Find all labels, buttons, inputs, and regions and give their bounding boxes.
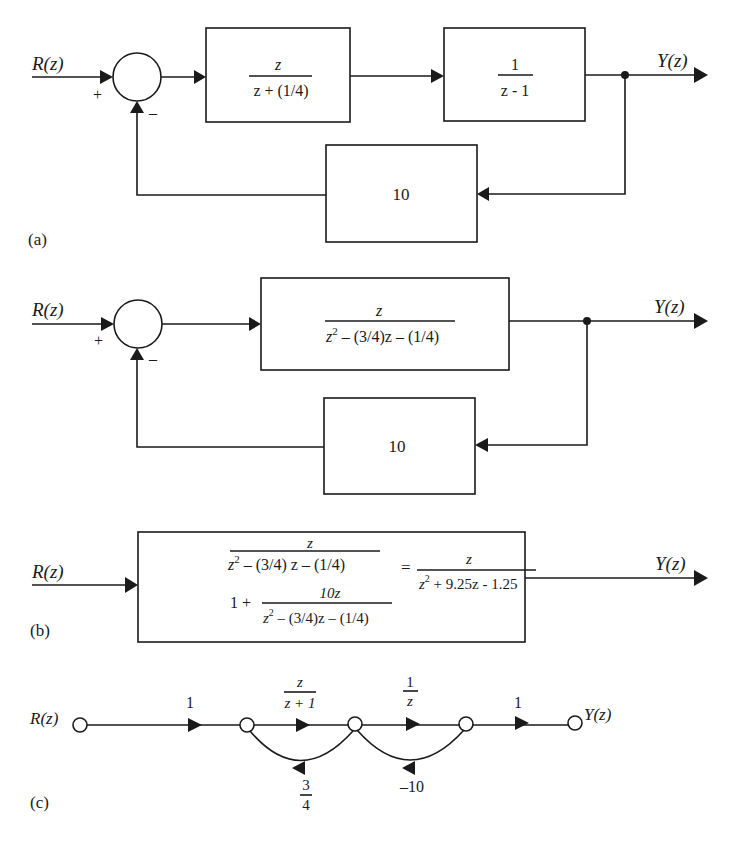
arrow-icon xyxy=(402,761,415,775)
input-label-c: R(z) xyxy=(29,709,59,728)
gain-z-over-z-plus-1-den: z + 1 xyxy=(284,695,316,711)
block-z-over-z-plus-quarter xyxy=(206,28,350,122)
lhs-inner-denominator: z2 – (3/4)z – (1/4) xyxy=(262,607,369,627)
arrow-icon xyxy=(406,717,420,731)
minus-sign: – xyxy=(148,350,158,367)
lhs-numerator: z xyxy=(306,535,313,551)
block2-denominator: z - 1 xyxy=(501,82,529,99)
arrow-icon xyxy=(515,716,529,730)
output-label-b1: Y(z) xyxy=(654,296,685,318)
feedback-minus-10: –10 xyxy=(399,778,424,795)
feedback-3-over-4-num: 3 xyxy=(302,777,310,793)
node-input xyxy=(73,718,87,732)
rhs-denominator: z2 + 9.25z - 1.25 xyxy=(418,573,517,592)
minus-sign: – xyxy=(148,104,158,121)
summing-junction-b xyxy=(114,300,162,348)
feedback-3-over-4-den: 4 xyxy=(302,797,310,813)
feedback-gain-b: 10 xyxy=(389,437,406,456)
arrow-icon xyxy=(694,67,708,83)
gain-1-over-z-den: z xyxy=(406,693,413,709)
arrow-icon xyxy=(101,317,114,331)
equals-sign: = xyxy=(401,558,411,577)
block-b-numerator: z xyxy=(375,302,383,319)
block-b-denominator: z2 – (3/4)z – (1/4) xyxy=(325,325,439,346)
output-label-a: Y(z) xyxy=(657,50,688,72)
block1-denominator: z + (1/4) xyxy=(253,82,308,100)
arrow-icon xyxy=(130,348,144,360)
diagram-b-closed-loop: R(z) + – z z2 – (3/4)z – (1/4) Y(z) 10 xyxy=(31,278,708,494)
lhs-10z: 10z xyxy=(320,585,341,601)
arrow-icon xyxy=(694,570,708,586)
arrow-icon xyxy=(296,718,310,732)
figure-label-c: (c) xyxy=(30,793,49,812)
arrow-icon xyxy=(125,577,138,593)
summing-junction-a xyxy=(113,53,161,101)
gain-z-over-z-plus-1-num: z xyxy=(296,674,303,690)
arrow-icon xyxy=(475,438,488,452)
output-label-c: Y(z) xyxy=(584,705,612,724)
arrow-icon xyxy=(130,101,144,113)
arrow-icon xyxy=(249,317,261,331)
block-plant-b xyxy=(261,278,509,370)
arrow-icon xyxy=(100,70,113,84)
node-3 xyxy=(348,717,362,731)
output-label-b2: Y(z) xyxy=(655,553,686,575)
lhs-one-plus: 1 + xyxy=(230,594,251,611)
block-diagram-figure: R(z) + – z z + (1/4) 1 z - 1 Y(z) 10 (a)… xyxy=(0,0,740,844)
arrow-icon xyxy=(188,718,202,732)
figure-label-b: (b) xyxy=(30,621,50,640)
plus-sign: + xyxy=(94,332,103,349)
node-4 xyxy=(459,717,473,731)
block1-numerator: z xyxy=(274,56,282,73)
diagram-b-reduced: R(z) z z2 – (3/4) z – (1/4) 1 + 10z z2 –… xyxy=(30,532,708,642)
figure-label-a: (a) xyxy=(28,230,47,249)
arrow-icon xyxy=(431,69,444,83)
plus-sign: + xyxy=(93,86,102,103)
arrow-icon xyxy=(292,761,305,775)
feedback-gain-a: 10 xyxy=(393,185,410,204)
rhs-numerator: z xyxy=(465,551,472,567)
block2-numerator: 1 xyxy=(511,56,519,73)
arrow-icon xyxy=(477,187,489,201)
lhs-numerator-denominator: z2 – (3/4) z – (1/4) xyxy=(227,553,345,574)
gain-1: 1 xyxy=(186,694,194,711)
diagram-a: R(z) + – z z + (1/4) 1 z - 1 Y(z) 10 (a) xyxy=(28,28,708,249)
gain-1-out: 1 xyxy=(514,694,522,711)
arrow-icon xyxy=(694,313,708,329)
node-2 xyxy=(240,718,254,732)
input-label-b2: R(z) xyxy=(31,561,64,583)
arrow-icon xyxy=(194,70,206,84)
gain-1-over-z-num: 1 xyxy=(406,674,414,690)
signal-flow-graph-c: R(z) 1 z z + 1 1 z 1 3 4 –10 Y(z) (c) xyxy=(29,674,612,813)
node-output xyxy=(568,716,582,730)
input-label-a: R(z) xyxy=(31,53,64,75)
input-label-b1: R(z) xyxy=(31,299,64,321)
